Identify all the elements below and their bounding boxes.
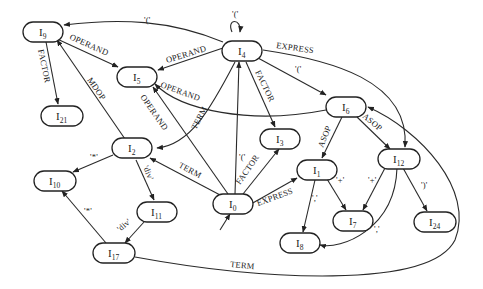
state-i17[interactable]: I17 (93, 243, 135, 263)
lr-parser-state-diagram: '(' '(' EXPRESS '(' FACTOR OPERAND TERM … (0, 0, 483, 289)
state-i8[interactable]: I8 (280, 233, 320, 253)
label-i4-self: '(' (232, 9, 239, 19)
label-i4-i2: TERM (189, 104, 209, 130)
state-i0[interactable]: I0 (213, 194, 253, 214)
state-i24[interactable]: I24 (414, 212, 456, 232)
state-i5[interactable]: I5 (117, 67, 157, 87)
state-i2[interactable]: I2 (112, 138, 152, 158)
state-i7[interactable]: I7 (333, 211, 373, 231)
label-i1-i8: ',' (312, 193, 318, 203)
state-i4[interactable]: I4 (222, 41, 262, 61)
edge-i0-i5 (153, 87, 228, 194)
label-i2-i10: '*' (90, 152, 98, 162)
label-i0-i1: EXPRESS (255, 186, 294, 208)
label-i17-i10: '*' (84, 206, 92, 216)
label-i17-i6: TERM (230, 259, 255, 271)
label-i6-i5: OPERAND (159, 79, 201, 103)
label-i12-i24: ')' (421, 180, 428, 190)
nodes: I0 I1 I2 I3 I4 I5 I6 I7 (23, 22, 456, 263)
label-i2-i11: 'div' (141, 164, 156, 182)
label-i6-i12: ASOP (361, 111, 385, 133)
label-i1-i7: '+' (336, 175, 345, 185)
label-i6-i1: ASOP (316, 124, 334, 149)
state-i1[interactable]: I1 (297, 160, 337, 180)
edge-i4-i2 (157, 62, 235, 148)
state-i11[interactable]: I11 (137, 202, 177, 222)
label-i4-i5: OPERAND (165, 43, 208, 65)
state-i12[interactable]: I12 (378, 149, 420, 169)
label-i0-i3: FACTOR (233, 152, 261, 186)
label-i0-i4: '(' (239, 152, 246, 162)
edge-i17-i10 (62, 191, 106, 243)
state-i6[interactable]: I6 (326, 97, 366, 117)
state-i9[interactable]: I9 (23, 22, 63, 42)
label-i12-i8: ',' (374, 224, 380, 234)
label-i4-i9: '(' (144, 15, 151, 25)
edge-start-i0 (220, 214, 230, 230)
label-i0-i5: OPERAND (138, 92, 170, 132)
label-i0-i2: TERM (177, 160, 203, 180)
label-i9-i21: FACTOR (36, 48, 53, 83)
state-i3[interactable]: I3 (260, 129, 300, 149)
label-i12-i7: '+' (368, 175, 377, 185)
label-i11-i17: 'div' (115, 216, 133, 233)
edge-i1-i8 (303, 180, 315, 232)
state-i10[interactable]: I10 (34, 171, 76, 191)
state-i21[interactable]: I21 (41, 106, 83, 126)
edge-i4-self (231, 22, 241, 33)
label-i4-i6: '(' (295, 64, 302, 74)
